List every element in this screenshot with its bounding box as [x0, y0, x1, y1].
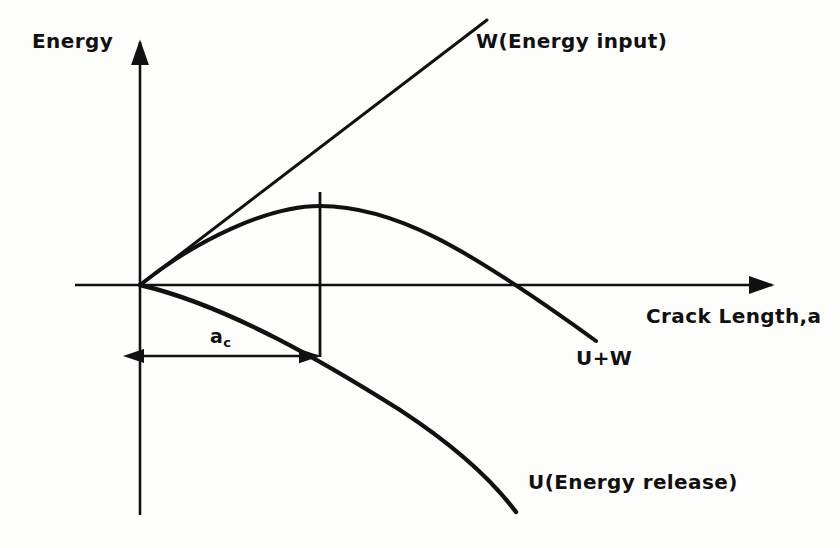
- y-axis-label: Energy: [32, 29, 113, 53]
- figure-canvas: Energy W(Energy input) Crack Length,a U+…: [0, 0, 840, 548]
- critical-length-subscript: c: [223, 335, 231, 350]
- critical-crack-length-label: ac: [210, 325, 231, 347]
- curve-label-w: W(Energy input): [476, 29, 667, 53]
- x-axis-label: Crack Length,a: [646, 304, 822, 328]
- curve-label-u: U(Energy release): [528, 470, 738, 494]
- critical-length-symbol: a: [210, 325, 223, 347]
- curve-u-energy-release: [140, 285, 516, 512]
- curve-w-energy-input: [140, 20, 487, 285]
- curve-label-u-plus-w: U+W: [576, 346, 632, 370]
- energy-crack-length-diagram: [0, 0, 840, 548]
- curve-u-plus-w: [140, 206, 596, 341]
